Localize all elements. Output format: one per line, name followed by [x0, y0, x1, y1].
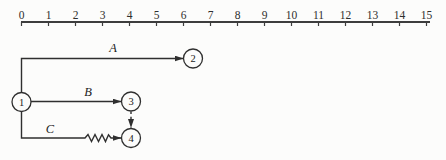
ruler-tick-label-15: 15	[421, 9, 433, 21]
node-number-4: 4	[128, 133, 134, 144]
ruler-tick-label-3: 3	[100, 9, 106, 21]
ruler-tick-label-0: 0	[19, 9, 25, 21]
activity-arrow-C	[22, 112, 122, 142]
activity-label-A: A	[108, 41, 117, 55]
ruler-tick-label-12: 12	[340, 9, 352, 21]
ruler-tick-label-8: 8	[235, 9, 241, 21]
ruler-tick-label-7: 7	[208, 9, 214, 21]
ruler-tick-label-6: 6	[181, 9, 187, 21]
scanned-network-diagram-figure: 0123456789101112131415 ABC 1234	[0, 0, 446, 160]
ruler-tick-label-1: 1	[46, 9, 52, 21]
time-ruler: 0123456789101112131415	[19, 9, 433, 27]
activity-arrows: ABC	[22, 41, 184, 142]
ruler-tick-label-13: 13	[367, 9, 379, 21]
node-number-3: 3	[128, 96, 133, 107]
ruler-tick-label-5: 5	[154, 9, 160, 21]
ruler-tick-label-9: 9	[262, 9, 268, 21]
ruler-tick-label-10: 10	[286, 9, 298, 21]
activity-label-B: B	[84, 85, 92, 99]
ruler-tick-label-2: 2	[73, 9, 79, 21]
ruler-tick-label-14: 14	[394, 9, 406, 21]
ruler-tick-label-4: 4	[127, 9, 133, 21]
ruler-tick-label-11: 11	[313, 9, 324, 21]
project-network-diagram: 0123456789101112131415 ABC 1234	[0, 0, 446, 160]
activity-arrow-A	[22, 59, 184, 93]
node-number-2: 2	[190, 53, 195, 64]
node-number-1: 1	[19, 97, 24, 108]
activity-label-C: C	[46, 122, 55, 136]
event-nodes: 1234	[12, 49, 203, 148]
